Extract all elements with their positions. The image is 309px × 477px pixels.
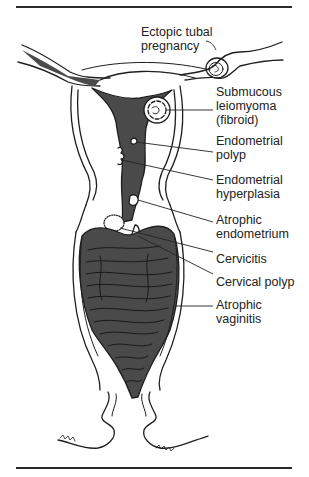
labia-left [58,392,114,448]
label-line: Ectopic tubal [141,25,213,39]
label-line: polyp [216,148,283,162]
label-endometrial-polyp: Endometrial polyp [216,134,283,162]
vaginal-canal [79,226,179,398]
label-submucous-leiomyoma: Submucous leiomyoma (fibroid) [216,85,282,127]
labia-right [144,392,208,448]
label-ectopic-tubal-pregnancy: Ectopic tubal pregnancy [141,25,213,53]
pubic-hair-left [60,435,75,441]
atrophic-endometrium [129,195,138,206]
label-line: leiomyoma [216,99,282,113]
label-line: vaginitis [216,312,262,326]
label-line: endometrium [216,227,289,241]
label-cervical-polyp: Cervical polyp [216,275,295,289]
label-line: Cervicitis [216,252,267,266]
label-atrophic-vaginitis: Atrophic vaginitis [216,298,262,326]
cervix-left [76,205,86,232]
label-line: (fibroid) [216,113,282,127]
label-line: hyperplasia [216,187,283,201]
uterus-left-wall [71,86,90,205]
label-line: Atrophic [216,213,289,227]
label-line: Atrophic [216,298,262,312]
label-line: pregnancy [141,39,213,53]
label-line: Endometrial [216,173,283,187]
label-endometrial-hyperplasia: Endometrial hyperplasia [216,173,283,201]
label-cervicitis: Cervicitis [216,252,267,266]
label-line: Submucous [216,85,282,99]
label-atrophic-endometrium: Atrophic endometrium [216,213,289,241]
cervix-right [170,205,180,232]
uterine-fundus [100,71,195,80]
label-line: Endometrial [216,134,283,148]
label-line: Cervical polyp [216,275,295,289]
endometrial-polyp [131,138,137,144]
